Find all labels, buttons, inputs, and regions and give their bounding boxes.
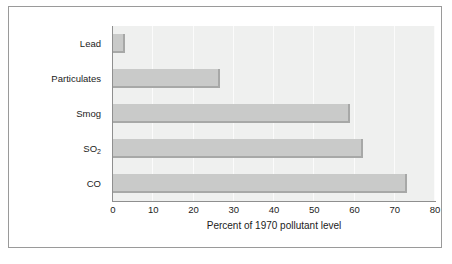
- x-axis-tick-label: 40: [262, 205, 286, 215]
- y-axis-label-subscript: 2: [97, 148, 101, 155]
- x-axis-tick-label: 50: [302, 205, 326, 215]
- x-axis-title: Percent of 1970 pollutant level: [113, 221, 435, 231]
- bar: [113, 139, 363, 158]
- y-axis-label-particulates: Particulates: [51, 74, 101, 84]
- y-axis-label-lead: Lead: [80, 39, 101, 49]
- x-axis-tick-label: 70: [383, 205, 407, 215]
- x-axis-tick-label: 10: [141, 205, 165, 215]
- x-axis-tick-label: 20: [182, 205, 206, 215]
- x-axis-tick-label: 80: [423, 205, 447, 215]
- x-axis-tick-label: 60: [343, 205, 367, 215]
- x-axis-line: [112, 201, 436, 202]
- x-axis-tick-label: 0: [101, 205, 125, 215]
- bar: [113, 104, 350, 123]
- bar: [113, 174, 407, 193]
- chart-figure: LeadParticulatesSmogSO2CO 01020304050607…: [0, 0, 452, 264]
- y-axis-label-co: CO: [87, 179, 101, 189]
- y-axis-label-so2: SO2: [83, 144, 101, 154]
- x-axis-tick-label: 30: [222, 205, 246, 215]
- bar: [113, 69, 220, 88]
- gridline: [434, 26, 435, 201]
- y-axis-label-smog: Smog: [76, 109, 101, 119]
- bar: [113, 34, 125, 53]
- figure-frame: LeadParticulatesSmogSO2CO 01020304050607…: [8, 6, 442, 248]
- y-axis-labels-group: LeadParticulatesSmogSO2CO: [9, 7, 109, 264]
